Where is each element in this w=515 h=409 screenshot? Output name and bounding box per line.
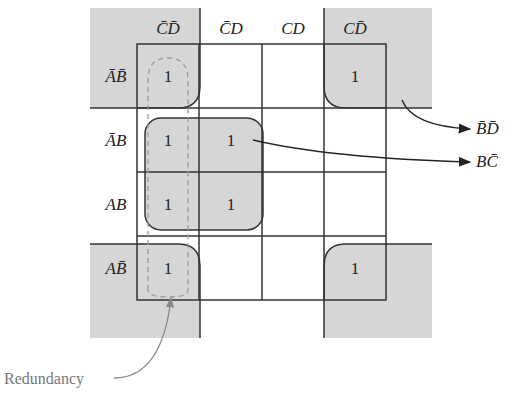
quad-group-bc — [145, 118, 263, 230]
cell-2-0: 1 — [164, 195, 173, 214]
corner-bottom-right — [324, 244, 432, 338]
col-header-0: C̄D̄ — [156, 19, 180, 38]
arrow-bc — [253, 140, 470, 162]
cell-3-0: 1 — [164, 259, 173, 278]
row-header-3: AB̄ — [105, 259, 127, 278]
cell-0-0: 1 — [164, 67, 173, 86]
term-label-bc: BC̄ — [476, 152, 498, 171]
cell-1-1: 1 — [227, 131, 236, 150]
cell-2-1: 1 — [227, 195, 236, 214]
row-header-0: ĀB̄ — [105, 67, 127, 86]
cell-1-0: 1 — [164, 131, 173, 150]
term-label-bd: B̄D̄ — [476, 119, 499, 138]
row-header-1: ĀB — [105, 131, 127, 150]
corner-top-left — [90, 8, 200, 108]
col-header-3: CD̄ — [343, 19, 367, 38]
col-header-1: C̄D — [219, 19, 243, 38]
redundancy-label: Redundancy — [4, 370, 84, 388]
cell-0-3: 1 — [351, 67, 360, 86]
karnaugh-map-diagram: C̄D̄ C̄D CD CD̄ ĀB̄ ĀB AB AB̄ 1 1 1 1 1 … — [0, 0, 515, 409]
row-header-2: AB — [105, 195, 127, 214]
col-header-2: CD — [281, 19, 305, 38]
corner-top-right — [324, 8, 432, 108]
cell-3-3: 1 — [351, 259, 360, 278]
